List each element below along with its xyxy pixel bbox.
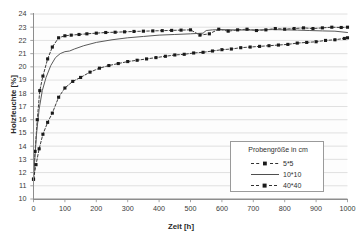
x-tick-label: 1000 <box>333 205 362 212</box>
x-axis-line <box>33 199 348 200</box>
x-tick-label: 500 <box>176 205 206 212</box>
series-marker <box>192 51 195 54</box>
x-tick-label: 400 <box>144 205 174 212</box>
series-marker <box>321 26 324 29</box>
x-tick-label: 800 <box>270 205 300 212</box>
series-marker <box>333 38 336 41</box>
series-marker <box>63 86 66 89</box>
series-marker <box>277 44 280 47</box>
series-marker <box>41 75 44 78</box>
series-marker <box>208 32 211 35</box>
y-tick-label: 23 <box>5 24 27 31</box>
series-marker <box>57 36 60 39</box>
x-tick-label: 100 <box>50 205 80 212</box>
legend-item-10x10: 10*10 <box>231 169 325 180</box>
series-marker <box>70 34 73 37</box>
series-marker <box>136 59 139 62</box>
series-marker <box>255 29 258 32</box>
series-marker <box>305 41 308 44</box>
series-marker <box>46 57 49 60</box>
x-tick-label: 600 <box>207 205 237 212</box>
series-marker <box>189 28 192 31</box>
series-marker <box>161 29 164 32</box>
series-marker <box>132 30 135 33</box>
series-marker <box>41 133 44 136</box>
series-marker <box>107 64 110 67</box>
series-marker <box>324 39 327 42</box>
series-marker <box>180 29 183 32</box>
series-marker <box>227 30 230 33</box>
y-tick-label: 10 <box>5 195 27 202</box>
y-tick-label: 12 <box>5 169 27 176</box>
legend-item-5x5: 5*5 <box>231 158 325 169</box>
series-marker <box>340 26 343 29</box>
series-marker <box>164 55 167 58</box>
y-axis-line <box>33 13 34 200</box>
series-marker <box>343 37 346 40</box>
chart-canvas <box>0 0 362 238</box>
series-marker <box>85 32 88 35</box>
series-marker <box>151 29 154 32</box>
y-axis-title: Holzfeuchte [%] <box>9 40 18 170</box>
series-marker <box>283 28 286 31</box>
series-marker <box>123 30 126 33</box>
y-tick-label: 24 <box>5 10 27 17</box>
x-tick-label: 200 <box>81 205 111 212</box>
legend-label-40x40: 40*40 <box>283 182 301 189</box>
series-marker <box>202 51 205 54</box>
series-marker <box>346 36 349 39</box>
series-marker <box>230 47 233 50</box>
series-marker <box>183 53 186 56</box>
series-marker <box>98 67 101 70</box>
series-marker <box>274 27 277 30</box>
series-marker <box>239 46 242 49</box>
legend-marker-5x5 <box>250 158 280 169</box>
series-marker <box>104 31 107 34</box>
series-marker <box>71 80 74 83</box>
series-marker <box>170 29 173 32</box>
series-marker <box>51 112 54 115</box>
legend: Probengröße in cm 5*5 10*10 40*40 <box>230 141 324 192</box>
series-marker <box>154 56 157 59</box>
series-marker <box>330 26 333 29</box>
series-marker <box>34 163 37 166</box>
chart-container: 101112131415161718192021222324 010020030… <box>0 0 362 238</box>
legend-label-5x5: 5*5 <box>283 160 294 167</box>
series-marker <box>211 49 214 52</box>
series-marker <box>293 27 296 30</box>
series-marker <box>267 44 270 47</box>
series-marker <box>311 27 314 30</box>
series-marker <box>117 62 120 65</box>
series-marker <box>249 45 252 48</box>
x-axis-title: Zeit [h] <box>0 222 362 231</box>
series-marker <box>142 30 145 33</box>
series-marker <box>217 28 220 31</box>
x-tick-label: 0 <box>19 205 49 212</box>
series-marker <box>46 121 49 124</box>
series-marker <box>63 34 66 37</box>
legend-item-40x40: 40*40 <box>231 180 325 191</box>
series-marker <box>245 28 248 31</box>
x-tick-label: 900 <box>301 205 331 212</box>
series-marker <box>77 33 80 36</box>
legend-marker-10x10 <box>250 169 280 180</box>
series-marker <box>220 48 223 51</box>
series-marker <box>198 34 201 37</box>
legend-marker-40x40 <box>250 180 280 191</box>
series-marker <box>38 89 41 92</box>
series-marker <box>296 42 299 45</box>
series-marker <box>315 40 318 43</box>
series-marker <box>126 60 129 63</box>
series-marker <box>57 96 60 99</box>
series-marker <box>114 31 117 34</box>
y-tick-label: 11 <box>5 182 27 189</box>
series-marker <box>38 147 41 150</box>
series-marker <box>236 28 239 31</box>
series-marker <box>258 45 261 48</box>
x-tick-label: 300 <box>113 205 143 212</box>
legend-title: Probengröße in cm <box>231 146 325 153</box>
x-tick-label: 700 <box>238 205 268 212</box>
series-marker <box>79 76 82 79</box>
series-marker <box>95 32 98 35</box>
series-marker <box>88 71 91 74</box>
